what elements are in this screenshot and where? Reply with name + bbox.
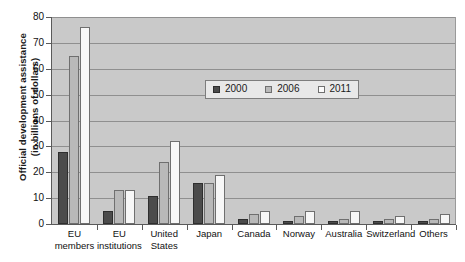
legend-swatch-2011-icon xyxy=(318,86,325,93)
bar-group xyxy=(148,17,180,224)
x-axis-label-norway: Norway xyxy=(276,228,321,240)
y-axis-tick-label: 0 xyxy=(16,219,44,229)
x-axis-label-line: United xyxy=(142,228,187,240)
bar-2011 xyxy=(395,216,405,224)
y-axis-tick-label: 10 xyxy=(16,193,44,203)
x-axis-label-others: Others xyxy=(411,228,456,240)
legend-entry-2000: 2000 xyxy=(213,83,247,95)
x-axis-label-eu-members: EUmembers xyxy=(52,228,97,251)
plot-area xyxy=(52,17,456,224)
x-axis-label-line: institutions xyxy=(97,240,142,252)
y-axis-tick-label: 50 xyxy=(16,90,44,100)
legend-label-2000: 2000 xyxy=(225,83,247,95)
bar-2006 xyxy=(159,162,169,224)
x-axis-label-line: Canada xyxy=(232,228,277,240)
x-axis-label-line: EU xyxy=(97,228,142,240)
y-axis-tick xyxy=(46,121,52,122)
y-axis-tick xyxy=(46,224,52,225)
y-axis-tick xyxy=(46,69,52,70)
x-axis-label-line: States xyxy=(142,240,187,252)
x-axis-label-eu-institutions: EUinstitutions xyxy=(97,228,142,251)
bar-2000 xyxy=(58,152,68,224)
x-axis-label-line: Japan xyxy=(187,228,232,240)
bar-2011 xyxy=(350,211,360,224)
legend: 2000 2006 2011 xyxy=(205,80,359,99)
y-axis-tick-label: 80 xyxy=(16,12,44,22)
y-axis-tick-labels: 01020304050607080 xyxy=(0,0,48,262)
x-axis-label-line: Norway xyxy=(276,228,321,240)
legend-label-2006: 2006 xyxy=(277,83,299,95)
y-axis-tick-label: 30 xyxy=(16,141,44,151)
bar-2000 xyxy=(193,183,203,224)
y-axis-tick xyxy=(46,17,52,18)
x-axis-label-australia: Australia xyxy=(321,228,366,240)
bar-group xyxy=(283,17,315,224)
bar-group xyxy=(328,17,360,224)
bar-group xyxy=(193,17,225,224)
bar-2011 xyxy=(305,211,315,224)
x-axis-line xyxy=(51,224,456,225)
legend-swatch-2000-icon xyxy=(213,86,220,93)
bar-2006 xyxy=(69,56,79,224)
bar-2011 xyxy=(215,175,225,224)
x-axis-label-line: Others xyxy=(411,228,456,240)
x-axis-label-switzerland: Switzerland xyxy=(366,228,411,240)
x-axis-label-line: Switzerland xyxy=(366,228,411,240)
x-axis-label-line: members xyxy=(52,240,97,252)
y-axis-tick xyxy=(46,198,52,199)
y-axis-tick-label: 60 xyxy=(16,64,44,74)
x-axis-label-line: Australia xyxy=(321,228,366,240)
bar-2011 xyxy=(260,211,270,224)
legend-entry-2011: 2011 xyxy=(318,83,352,95)
bar-2000 xyxy=(148,196,158,224)
y-axis-tick xyxy=(46,146,52,147)
legend-label-2011: 2011 xyxy=(330,83,352,95)
bar-2000 xyxy=(103,211,113,224)
bar-2011 xyxy=(125,190,135,224)
y-axis-tick-label: 40 xyxy=(16,116,44,126)
bar-group xyxy=(103,17,135,224)
x-axis-label-canada: Canada xyxy=(232,228,277,240)
legend-entry-2006: 2006 xyxy=(265,83,299,95)
bar-2006 xyxy=(294,216,304,224)
y-axis-tick-label: 70 xyxy=(16,38,44,48)
x-axis-label-line: EU xyxy=(52,228,97,240)
x-axis-label-united-states: UnitedStates xyxy=(142,228,187,251)
bar-group xyxy=(238,17,270,224)
y-axis-tick-label: 20 xyxy=(16,167,44,177)
bar-2011 xyxy=(440,214,450,224)
y-axis-tick xyxy=(46,43,52,44)
bar-2006 xyxy=(114,190,124,224)
legend-swatch-2006-icon xyxy=(265,86,272,93)
bar-2011 xyxy=(80,27,90,224)
x-axis-label-japan: Japan xyxy=(187,228,232,240)
x-axis-tick xyxy=(456,225,457,230)
y-axis-tick xyxy=(46,95,52,96)
bar-group xyxy=(418,17,450,224)
bar-chart: Official development assistance (in bill… xyxy=(0,0,465,262)
y-axis-tick xyxy=(46,172,52,173)
bar-group xyxy=(373,17,405,224)
bar-group xyxy=(58,17,90,224)
bar-2006 xyxy=(249,214,259,224)
bar-2011 xyxy=(170,141,180,224)
bar-2006 xyxy=(204,183,214,224)
